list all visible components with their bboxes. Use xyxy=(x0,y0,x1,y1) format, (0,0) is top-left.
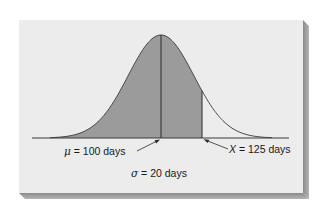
sigma-value: = 20 days xyxy=(138,167,187,179)
mean-label: μ = 100 days xyxy=(64,145,125,157)
panel-shadow-right xyxy=(303,20,309,199)
panel-shadow-bottom xyxy=(19,193,309,199)
x-value-label: X = 125 days xyxy=(228,143,291,155)
normal-distribution-figure: μ = 100 days X = 125 days σ = 20 days xyxy=(0,0,324,214)
x-value: = 125 days xyxy=(236,143,291,155)
sigma-label: σ = 20 days xyxy=(131,167,187,179)
mu-value: = 100 days xyxy=(71,145,126,157)
